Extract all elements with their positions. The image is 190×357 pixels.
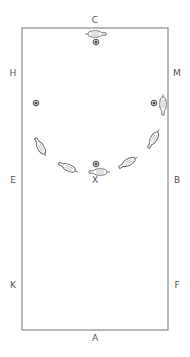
horse-icon [118, 154, 139, 170]
marker-b: B [171, 175, 183, 185]
cone-icon [33, 100, 39, 106]
cone-icon [151, 100, 157, 106]
marker-a: A [89, 333, 101, 343]
horses-group [33, 31, 167, 176]
horse-icon [33, 137, 49, 158]
horse-icon [146, 128, 162, 149]
cone-icon [93, 161, 99, 167]
horse-icon [85, 31, 106, 38]
marker-e: E [7, 175, 19, 185]
marker-c: C [89, 15, 101, 25]
marker-k: K [7, 280, 19, 290]
horse-icon [57, 160, 79, 175]
cones-group [33, 39, 157, 167]
horse-icon [160, 94, 167, 115]
marker-m: M [171, 68, 183, 78]
dressage-arena-diagram: C H M E B X K F A [0, 0, 190, 357]
cone-icon [93, 39, 99, 45]
marker-x: X [89, 175, 101, 185]
marker-f: F [171, 280, 183, 290]
marker-h: H [7, 68, 19, 78]
